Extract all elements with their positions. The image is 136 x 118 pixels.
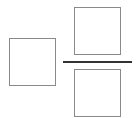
fraction-bar [63,61,132,63]
numerator-box [74,7,121,55]
left-box [9,38,56,86]
denominator-box [74,69,121,117]
